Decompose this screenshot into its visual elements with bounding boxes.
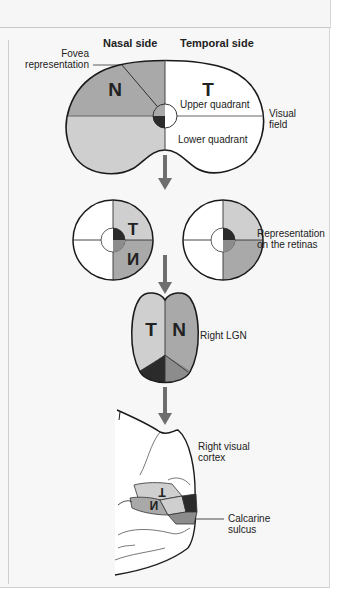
calcarine-sulcus-label-line1: Calcarine [228, 513, 271, 524]
upper-quadrant-label: Upper quadrant [180, 99, 250, 110]
arrow-down-icon [158, 255, 172, 294]
right-visual-cortex-shape: T N [115, 410, 197, 575]
visual-field-label-line1: Visual [269, 108, 296, 119]
temporal-side-heading: Temporal side [180, 37, 254, 49]
visual-pathway-figure: Nasal side Temporal side Fovea represent… [0, 0, 349, 603]
retina-nasal-letter-mirrored: N [127, 250, 139, 269]
nasal-side-heading: Nasal side [103, 37, 157, 49]
lgn-temporal-letter: T [145, 319, 157, 340]
lower-quadrant-label: Lower quadrant [178, 134, 248, 145]
arrow-down-icon [158, 387, 172, 425]
lgn-nasal-letter: N [172, 319, 186, 340]
fovea-label-line1: Fovea [61, 48, 89, 59]
arrow-down-icon [158, 155, 172, 190]
left-retina: T N [70, 198, 160, 284]
visual-field-label-line2: field [269, 119, 287, 130]
cortex-nasal-letter-mirrored: N [150, 499, 159, 513]
retinas-label-line2: on the retinas [257, 239, 318, 250]
retinas-label-line1: Representation [257, 228, 325, 239]
right-lgn-label: Right LGN [200, 330, 247, 341]
right-visual-cortex-label-line2: cortex [198, 452, 225, 463]
nasal-letter: N [108, 79, 122, 100]
right-lgn-shape: T N [125, 285, 205, 392]
calcarine-sulcus-label-line2: sulcus [228, 524, 256, 535]
fovea-label-line2: representation [25, 59, 89, 70]
temporal-letter: T [202, 79, 214, 100]
cortex-temporal-letter-inverted: T [158, 485, 166, 499]
retina-temporal-letter: T [128, 220, 139, 239]
right-visual-cortex-label-line1: Right visual [198, 441, 250, 452]
